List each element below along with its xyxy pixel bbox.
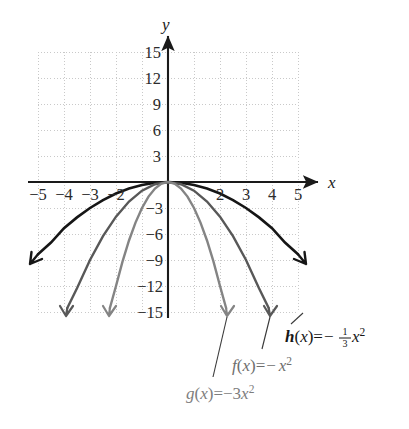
function-label-h: h(x)=− 1 3 x2	[285, 326, 366, 349]
svg-text:g(x)=−3x2: g(x)=−3x2	[186, 383, 255, 403]
y-axis-label: y	[160, 15, 170, 34]
x-tick-label: 3	[242, 185, 250, 204]
leader-line-h	[291, 313, 303, 324]
svg-text:x2: x2	[351, 326, 366, 346]
leader-line-g	[213, 317, 227, 377]
x-tick-label: 4	[268, 185, 276, 204]
svg-text:f(x)=−x2: f(x)=−x2	[232, 355, 292, 375]
y-tick-label: −6	[145, 225, 163, 244]
y-tick-label: −3	[145, 199, 163, 218]
y-tick-label: 6	[153, 121, 161, 140]
svg-text:h(x)=−: h(x)=−	[285, 327, 334, 346]
fraction-numerator-h: 1	[343, 326, 348, 337]
function-label-g: g(x)=−3x2	[186, 383, 255, 403]
y-tick-label: 3	[153, 147, 161, 166]
x-tick-label: −3	[81, 185, 99, 204]
x-axis-label: x	[327, 173, 336, 192]
y-tick-label: 12	[145, 69, 162, 88]
x-tick-label: −5	[29, 185, 47, 204]
y-tick-label: 9	[153, 95, 161, 114]
x-tick-label: 2	[216, 185, 224, 204]
x-tick-label: 5	[294, 185, 302, 204]
fn-name-g: g	[186, 384, 195, 403]
x-tick-label: −2	[107, 185, 125, 204]
fn-name-h: h	[285, 327, 294, 346]
x-tick-label: −4	[55, 185, 73, 204]
x-tick-labels: −5 −4 −3 −2 2 3 4 5	[29, 185, 302, 204]
function-label-f: f(x)=−x2	[232, 355, 292, 375]
y-tick-label: 15	[145, 43, 162, 62]
y-tick-label: −15	[137, 303, 163, 322]
leader-line-f	[262, 317, 270, 349]
y-tick-label: −9	[145, 251, 163, 270]
fraction-denominator-h: 3	[343, 338, 348, 349]
y-tick-label: −12	[137, 277, 163, 296]
parabola-graph: −5 −4 −3 −2 2 3 4 5 15 12 9 6 3 −3 −6 −9…	[0, 0, 409, 429]
figure-canvas: −5 −4 −3 −2 2 3 4 5 15 12 9 6 3 −3 −6 −9…	[0, 0, 409, 429]
